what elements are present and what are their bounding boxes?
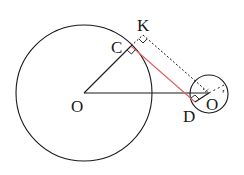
label-K: K: [137, 16, 150, 35]
right-angle-D: [191, 95, 199, 99]
geometry-diagram: O C K D O ′: [0, 0, 244, 175]
segment-CD: [131, 46, 195, 102]
right-angle-C: [127, 50, 135, 54]
label-O-prime: O: [206, 95, 218, 114]
right-angle-K: [139, 39, 147, 43]
segment-CK-dashed: [131, 35, 143, 46]
label-D: D: [183, 107, 195, 126]
segment-OC: [84, 46, 131, 93]
diagram-canvas: O C K D O ′: [0, 0, 244, 175]
label-prime-mark: ′: [222, 86, 225, 101]
label-O: O: [71, 97, 83, 116]
label-C: C: [111, 38, 122, 57]
segment-KO-prime-dashed: [143, 35, 209, 93]
